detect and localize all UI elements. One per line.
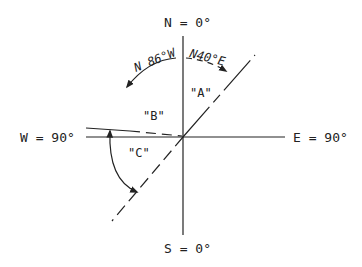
bearing-diagram: N = 0° S = 0° W = 90° E = 90° N 86°W N40… [0, 0, 362, 267]
label-north: N = 0° [164, 15, 211, 30]
arc-c [110, 131, 137, 192]
bearing-line-n86w-dashed [130, 131, 182, 136]
bearing-line-n86w [86, 128, 130, 131]
label-east: E = 90° [293, 130, 348, 145]
label-region-c: "C" [128, 146, 150, 160]
diagram-svg: N = 0° S = 0° W = 90° E = 90° N 86°W N40… [0, 0, 362, 267]
label-region-b: "B" [143, 109, 165, 123]
label-region-a: "A" [190, 86, 212, 100]
label-south: S = 0° [164, 241, 211, 256]
label-bearing-n86w: N 86°W [131, 45, 179, 75]
label-west: W = 90° [20, 130, 75, 145]
label-bearing-n40e: N40°E [187, 46, 227, 69]
